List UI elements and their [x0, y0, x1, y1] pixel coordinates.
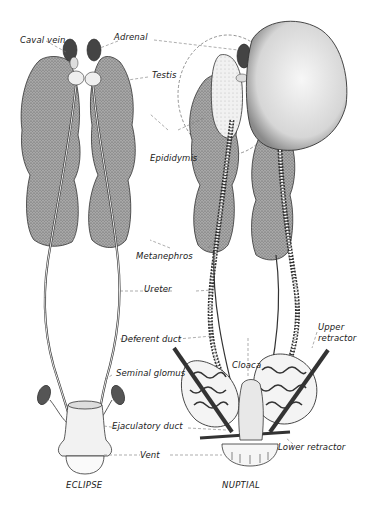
eclipse-adrenal-right — [87, 39, 101, 61]
nuptial-cloaca — [239, 380, 264, 441]
label-testis: Testis — [152, 70, 177, 80]
eclipse-vent — [66, 456, 104, 474]
label-seminal-glomus: Seminal glomus — [116, 368, 185, 378]
label-ureter: Ureter — [144, 284, 172, 294]
label-ejaculatory-duct: Ejaculatory duct — [112, 421, 183, 431]
eclipse-seminal-glomus-left — [35, 384, 53, 407]
label-cloaca: Cloaca — [232, 360, 261, 370]
label-adrenal: Adrenal — [114, 32, 148, 42]
eclipse-cloaca — [58, 405, 111, 456]
eclipse-seminal-glomus-right — [109, 384, 127, 407]
eclipse-testis-right — [85, 72, 101, 86]
eclipse-metanephros-left — [21, 56, 80, 246]
nuptial-epididymis — [211, 55, 242, 139]
label-caval-vein: Caval vein — [20, 35, 65, 45]
eclipse-testis-left — [68, 71, 84, 85]
nuptial-testis-large — [246, 21, 346, 150]
label-metanephros: Metanephros — [136, 251, 193, 261]
eclipse-panel — [21, 39, 135, 474]
label-deferent-duct: Deferent duct — [121, 334, 181, 344]
caption-eclipse: ECLIPSE — [66, 480, 103, 490]
label-vent: Vent — [140, 450, 160, 460]
caption-nuptial: NUPTIAL — [222, 480, 260, 490]
label-lower-retractor: Lower retractor — [278, 442, 345, 452]
label-upper-retractor: Upper retractor — [318, 322, 362, 344]
nuptial-panel — [174, 21, 347, 466]
label-epididymis: Epididymis — [150, 153, 197, 163]
nuptial-metanephros-right — [252, 140, 295, 260]
